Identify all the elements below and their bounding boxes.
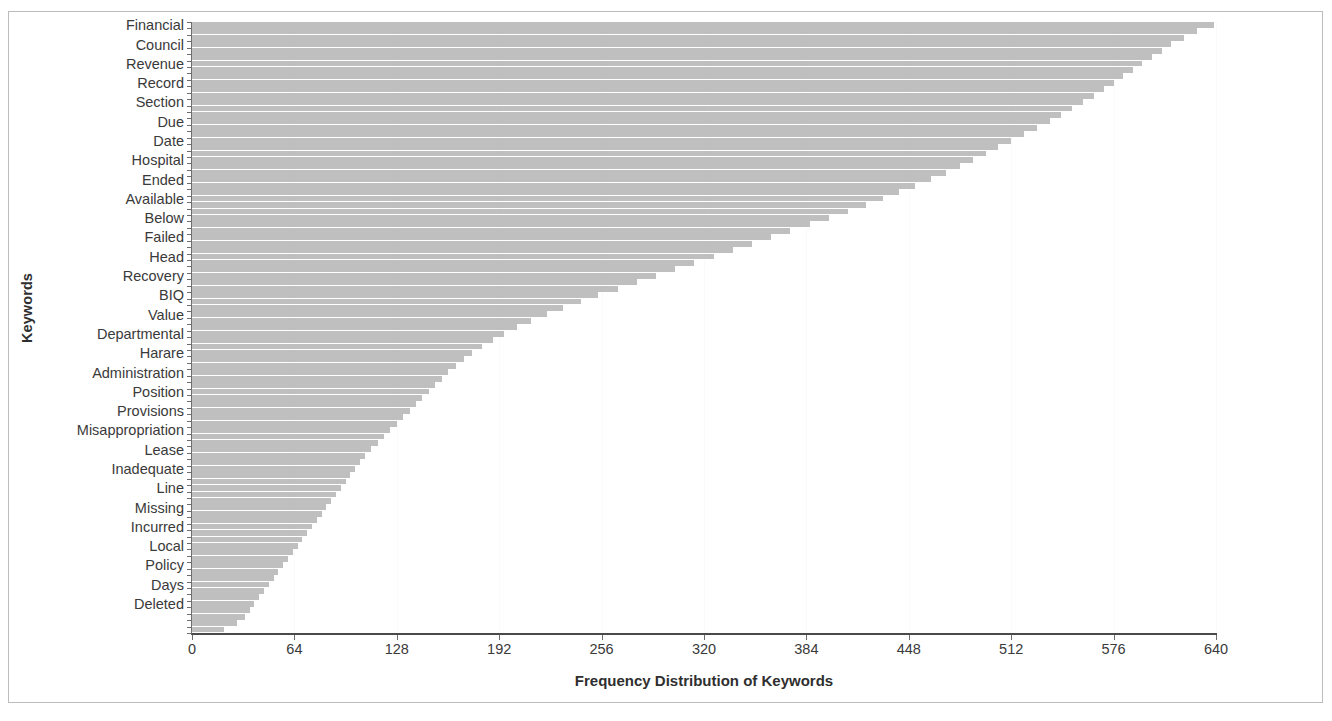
x-axis-tick	[806, 635, 807, 640]
bar	[192, 73, 1123, 79]
bar	[192, 247, 733, 253]
bar	[192, 157, 973, 163]
bar	[192, 202, 866, 208]
y-axis-tick	[187, 151, 192, 152]
bar	[192, 401, 416, 407]
bar	[192, 209, 848, 215]
bar	[192, 517, 317, 523]
y-axis-tick	[187, 530, 192, 531]
y-axis-tick	[187, 434, 192, 435]
bar	[192, 543, 298, 549]
bar	[192, 479, 346, 485]
y-axis-tick	[187, 196, 192, 197]
bar	[192, 376, 442, 382]
x-axis-tick	[397, 635, 398, 640]
bar	[192, 453, 365, 459]
y-axis-tick	[187, 614, 192, 615]
y-axis-tick	[187, 440, 192, 441]
x-axis-tick-label: 192	[487, 641, 511, 657]
y-axis-tick	[187, 73, 192, 74]
bar	[192, 305, 563, 311]
bar	[192, 440, 378, 446]
y-axis-tick-label: Harare	[140, 346, 184, 361]
y-axis-tick	[187, 485, 192, 486]
bar	[192, 530, 307, 536]
bar	[192, 260, 694, 266]
bar	[192, 498, 331, 504]
x-axis-tick-label: 320	[692, 641, 716, 657]
x-axis-tick-label: 512	[999, 641, 1023, 657]
plot-area	[192, 22, 1216, 633]
y-axis-tick	[187, 163, 192, 164]
bar	[192, 131, 1024, 137]
bar	[192, 311, 547, 317]
bar	[192, 86, 1104, 92]
bar	[192, 562, 283, 568]
y-axis-tick	[187, 170, 192, 171]
y-axis-tick	[187, 594, 192, 595]
bar	[192, 106, 1072, 112]
y-axis-tick	[187, 369, 192, 370]
x-axis-tick	[909, 635, 910, 640]
x-axis-tick-label: 448	[897, 641, 921, 657]
y-axis-tick	[187, 569, 192, 570]
bar	[192, 318, 531, 324]
x-axis-tick-labels: 064128192256320384448512576640	[192, 641, 1216, 667]
bar	[192, 627, 224, 633]
bar	[192, 215, 829, 221]
bar	[192, 459, 360, 465]
bar	[192, 363, 456, 369]
bar	[192, 556, 288, 562]
bar	[192, 299, 581, 305]
y-axis-tick	[187, 112, 192, 113]
y-axis-tick	[187, 524, 192, 525]
frequency-bar-chart: Keywords FinancialCouncilRevenueRecordSe…	[0, 0, 1332, 721]
gridline	[1114, 22, 1115, 633]
y-axis-tick	[187, 221, 192, 222]
bar	[192, 196, 883, 202]
bar	[192, 93, 1094, 99]
y-axis-tick-label: Lease	[144, 442, 184, 457]
y-axis-tick-label: Position	[132, 385, 184, 400]
y-axis-tick	[187, 234, 192, 235]
y-axis-tick-label: Inadequate	[111, 462, 184, 477]
bar	[192, 254, 714, 260]
y-axis-tick-label: Missing	[135, 500, 184, 515]
y-axis-tick	[187, 575, 192, 576]
y-axis-tick-label: Record	[137, 76, 184, 91]
y-axis-tick-label: Provisions	[117, 404, 184, 419]
y-axis-tick-label: Incurred	[131, 520, 184, 535]
y-axis-tick	[187, 427, 192, 428]
y-axis-tick	[187, 389, 192, 390]
y-axis-tick-label: Line	[157, 481, 184, 496]
x-axis-tick	[1011, 635, 1012, 640]
y-axis-tick	[187, 131, 192, 132]
y-axis-tick	[187, 382, 192, 383]
x-axis-tick	[1114, 635, 1115, 640]
y-axis-tick	[187, 80, 192, 81]
y-axis-tick-label: Policy	[145, 558, 184, 573]
y-axis-tick	[187, 376, 192, 377]
y-axis-tick	[187, 620, 192, 621]
x-axis-tick	[294, 635, 295, 640]
y-axis-tick	[187, 459, 192, 460]
y-axis-tick	[187, 601, 192, 602]
y-axis-tick	[187, 562, 192, 563]
bar	[192, 511, 322, 517]
y-axis-tick	[187, 125, 192, 126]
y-axis-tick	[187, 48, 192, 49]
bar	[192, 601, 254, 607]
y-axis-tick	[187, 517, 192, 518]
bar	[192, 485, 341, 491]
y-axis-tick	[187, 67, 192, 68]
y-axis-tick	[187, 86, 192, 87]
y-axis-tick	[187, 138, 192, 139]
bar	[192, 112, 1061, 118]
y-axis-tick	[187, 472, 192, 473]
y-axis-tick	[187, 395, 192, 396]
bar	[192, 395, 422, 401]
y-axis-tick-label: Financial	[126, 18, 184, 33]
y-axis-tick	[187, 633, 192, 634]
y-axis-tick	[187, 254, 192, 255]
bar	[192, 99, 1083, 105]
